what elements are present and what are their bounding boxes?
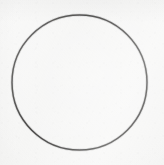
drawing-canvas <box>0 0 164 165</box>
drawing-surface <box>0 0 164 165</box>
circle-outline <box>12 15 147 150</box>
